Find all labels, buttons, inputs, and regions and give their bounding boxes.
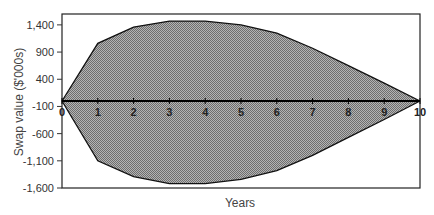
x-axis-title: Years [225, 196, 255, 210]
x-tick-label: 8 [345, 106, 351, 118]
x-tick-label: 10 [414, 106, 426, 118]
y-tick-label: 1,400 [26, 19, 54, 31]
x-tick-label: 3 [166, 106, 172, 118]
x-tick-label: 7 [310, 106, 316, 118]
y-tick-label: -600 [32, 128, 54, 140]
x-tick-label: 1 [95, 106, 101, 118]
x-tick-label: 2 [131, 106, 137, 118]
x-tick-label: 4 [202, 106, 209, 118]
x-tick-label: 9 [381, 106, 387, 118]
y-tick-label: 400 [36, 73, 54, 85]
swap-value-chart: 1,400900400-100-600-1,100-1,600012345678… [0, 0, 434, 215]
x-tick-label: 6 [274, 106, 280, 118]
y-tick-label: 900 [36, 46, 54, 58]
y-tick-label: -1,100 [23, 155, 54, 167]
x-tick-label: 5 [238, 106, 244, 118]
y-tick-label: -100 [32, 100, 54, 112]
x-tick-label: 0 [59, 106, 65, 118]
y-axis-title: Swap value ($'000s) [12, 48, 26, 156]
y-tick-label: -1,600 [23, 182, 54, 194]
